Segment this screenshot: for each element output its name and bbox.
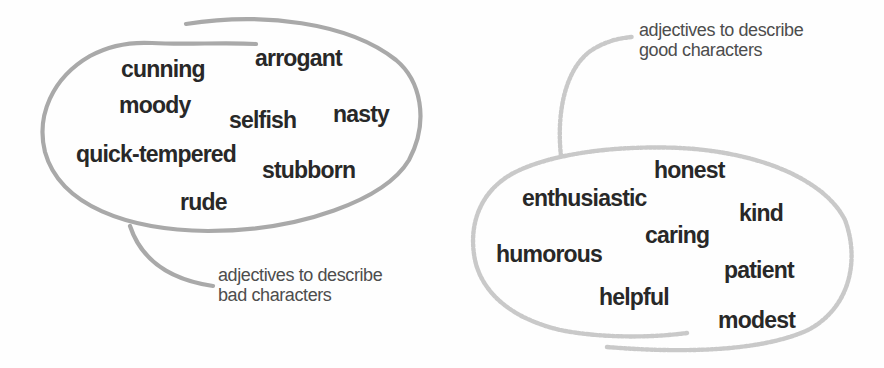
bad-bubble-caption-line1: adjectives to describe — [218, 265, 382, 285]
adjectives-worksheet: cunning arrogant moody selfish nasty qui… — [0, 0, 884, 368]
adjective-word-nasty: nasty — [333, 103, 389, 126]
adjective-word-modest: modest — [718, 309, 795, 332]
adjective-word-honest: honest — [654, 159, 725, 182]
adjective-word-selfish: selfish — [229, 109, 296, 132]
adjective-word-arrogant: arrogant — [255, 47, 342, 70]
adjective-word-quick-tempered: quick-tempered — [76, 143, 236, 166]
adjective-word-kind: kind — [739, 202, 783, 225]
good-bubble-caption-line1: adjectives to describe — [639, 20, 803, 40]
adjective-word-cunning: cunning — [121, 58, 205, 81]
adjective-word-stubborn: stubborn — [262, 159, 355, 182]
bad-bubble-pointer-line — [130, 226, 213, 286]
bad-bubble-caption: adjectives to describe bad characters — [218, 265, 382, 305]
adjective-word-moody: moody — [119, 94, 190, 117]
bad-bubble-caption-line2: bad characters — [218, 285, 382, 305]
adjective-word-humorous: humorous — [496, 243, 602, 266]
adjective-word-helpful: helpful — [599, 286, 669, 309]
adjective-word-rude: rude — [180, 191, 227, 214]
good-bubble-caption: adjectives to describe good characters — [639, 20, 803, 60]
adjective-word-patient: patient — [724, 259, 794, 282]
adjective-word-enthusiastic: enthusiastic — [522, 187, 647, 210]
good-bubble-caption-line2: good characters — [639, 40, 803, 60]
adjective-word-caring: caring — [645, 224, 709, 247]
good-bubble-pointer-line — [560, 37, 632, 156]
